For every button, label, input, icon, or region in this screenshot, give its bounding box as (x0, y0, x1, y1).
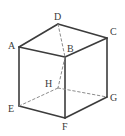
edge-e-f (19, 106, 65, 118)
vertex-label-b: B (67, 44, 74, 54)
vertex-label-g: G (110, 93, 117, 103)
edge-d-b-hidden (58, 24, 65, 57)
vertex-label-h: H (45, 79, 52, 89)
solid-edges-group (19, 24, 107, 118)
edge-d-c (58, 24, 107, 38)
vertex-label-d: D (54, 12, 61, 22)
edge-f-g (65, 97, 107, 118)
vertex-label-f: F (62, 122, 68, 132)
edge-a-d (19, 24, 58, 47)
vertex-label-c: C (110, 27, 117, 37)
cube-wireframe (0, 0, 125, 136)
edge-e-h-hidden (19, 88, 58, 106)
vertex-label-a: A (8, 41, 15, 51)
edge-b-h-hidden (58, 57, 65, 88)
hidden-edges-group (19, 24, 107, 106)
edge-a-b (19, 47, 65, 57)
cube-diagram: ABCDEFGH (0, 0, 125, 136)
vertex-label-e: E (8, 104, 14, 114)
